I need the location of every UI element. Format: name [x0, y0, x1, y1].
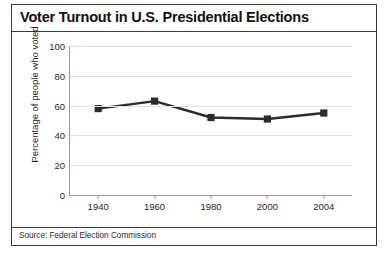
y-axis-label: Percentage of people who voted: [29, 25, 40, 165]
gridline-60: [70, 106, 352, 107]
data-point-2004: [320, 109, 327, 116]
y-tick-label-0: 0: [60, 190, 65, 201]
chart-title: Voter Turnout in U.S. Presidential Elect…: [20, 9, 309, 25]
data-point-1980: [207, 114, 214, 121]
data-point-2000: [264, 115, 271, 122]
gridline-100: [70, 46, 352, 47]
y-tick-label-40: 40: [54, 130, 65, 141]
x-tick-label-1940: 1940: [88, 201, 109, 212]
y-tick-label-100: 100: [49, 41, 65, 52]
gridline-40: [70, 135, 352, 136]
gridline-80: [70, 76, 352, 77]
y-tick-label-60: 60: [54, 100, 65, 111]
data-point-1960: [151, 98, 158, 105]
x-tick-label-1960: 1960: [144, 201, 165, 212]
chart-title-bar: Voter Turnout in U.S. Presidential Elect…: [12, 5, 376, 32]
y-tick-label-80: 80: [54, 70, 65, 81]
line-series: [70, 46, 352, 195]
chart-figure: Voter Turnout in U.S. Presidential Elect…: [11, 4, 377, 246]
x-tick-1960: [154, 195, 155, 199]
x-tick-1940: [98, 195, 99, 199]
gridline-20: [70, 165, 352, 166]
x-tick-label-2000: 2000: [257, 201, 278, 212]
x-tick-1980: [211, 195, 212, 199]
x-tick-2004: [323, 195, 324, 199]
chart-source-bar: Source: Federal Election Commission: [12, 227, 376, 245]
source-note: Source: Federal Election Commission: [19, 231, 156, 240]
plot-area: 02040608010019401960198020002004: [69, 46, 352, 196]
plot-wrapper: Percentage of people who voted 020406080…: [12, 32, 376, 229]
x-tick-2000: [267, 195, 268, 199]
y-tick-label-20: 20: [54, 160, 65, 171]
x-tick-label-1980: 1980: [200, 201, 221, 212]
x-tick-label-2004: 2004: [313, 201, 334, 212]
